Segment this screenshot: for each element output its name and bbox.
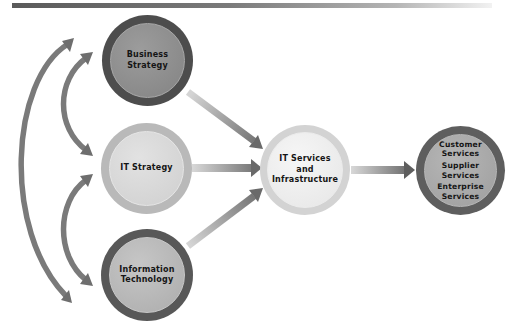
node-label: Customer Services Supplier Services Ente… bbox=[437, 140, 484, 202]
arrow-info-tech-to-it-services bbox=[188, 188, 263, 246]
node-business-strategy: Business Strategy bbox=[102, 15, 193, 106]
node-information-technology: Information Technology bbox=[101, 229, 193, 321]
arrowhead-icon bbox=[404, 161, 415, 179]
upper-feedback-arc-arrow bbox=[64, 52, 94, 156]
arrow-business-to-it-services bbox=[188, 92, 263, 149]
outer-feedback-arc-arrow bbox=[21, 38, 74, 303]
enterprise-services-label: Enterprise bbox=[437, 182, 484, 192]
lower-feedback-arc-arrow bbox=[64, 174, 94, 286]
arrow-it-services-to-services bbox=[351, 161, 415, 179]
node-it-strategy: IT Strategy bbox=[101, 123, 192, 214]
node-label: IT Strategy bbox=[120, 163, 173, 174]
node-label: Information Technology bbox=[119, 265, 174, 286]
node-label: Business Strategy bbox=[127, 50, 169, 71]
node-services: Customer Services Supplier Services Ente… bbox=[416, 126, 505, 215]
node-label: IT Services and Infrastructure bbox=[272, 154, 338, 186]
supplier-services-label: Supplier bbox=[437, 161, 484, 171]
node-it-services-infrastructure: IT Services and Infrastructure bbox=[260, 125, 350, 215]
arrow-it-strategy-to-it-services bbox=[192, 159, 262, 177]
customer-services-label: Customer bbox=[437, 140, 484, 150]
